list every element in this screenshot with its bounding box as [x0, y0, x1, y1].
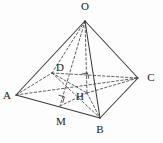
right-angle-at-M: [57, 95, 64, 102]
pyramid-diagram: OABCDHM: [0, 0, 163, 143]
dashed-edge-group: [16, 21, 138, 118]
vertex-label-C: C: [147, 71, 154, 83]
right-angle-at-H: [82, 73, 89, 80]
vertex-label-O: O: [81, 0, 89, 12]
right-angle-group: [57, 73, 89, 103]
vertex-label-H: H: [76, 90, 84, 102]
solid-edge-group: [16, 21, 138, 118]
vertex-label-group: OABCDHM: [3, 0, 155, 135]
vertex-label-M: M: [56, 115, 66, 127]
vertex-label-B: B: [96, 123, 103, 135]
edge-OA: [16, 21, 85, 95]
vertex-label-D: D: [56, 61, 64, 73]
edge-DC: [52, 73, 138, 78]
vertex-label-A: A: [3, 89, 11, 101]
geometry-figure: OABCDHM: [0, 0, 163, 143]
